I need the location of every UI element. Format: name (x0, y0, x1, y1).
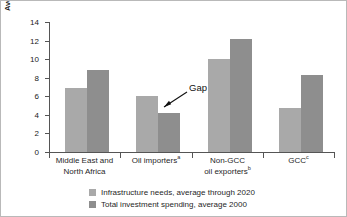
chart-figure: Average share of GDP (%) 0 2 4 6 8 10 (0, 0, 347, 217)
x-category-label-mena: Middle East and North Africa (49, 156, 120, 177)
x-category-label-non-gcc-line1: Non-GCC (210, 156, 245, 165)
x-category-footnote-oil-importers: a (177, 154, 180, 160)
y-tick-2 (45, 133, 49, 134)
x-category-label-non-gcc-oil-exporters: Non-GCC oil exportersb (192, 156, 263, 177)
x-category-label-mena-line2: North Africa (64, 167, 106, 176)
chart-legend: Infrastructure needs, average through 20… (89, 187, 255, 211)
y-tick-label-0: 0 (35, 148, 39, 157)
bar-gcc-infrastructure-needs (279, 108, 301, 152)
x-category-label-gcc-line1: GCC (288, 156, 306, 165)
y-tick-label-4: 4 (35, 110, 39, 119)
bar-gcc-total-investment-spending (301, 75, 323, 152)
bar-mena-infrastructure-needs (65, 88, 87, 152)
y-axis-title: Average share of GDP (%) (1, 0, 15, 29)
y-tick-12 (45, 41, 49, 42)
y-tick-10 (45, 59, 49, 60)
gap-annotation-label: Gap (189, 82, 207, 93)
legend-label-total-investment-spending: Total investment spending, average 2000 (101, 200, 247, 209)
y-tick-label-6: 6 (35, 92, 39, 101)
bar-non-gcc-oil-exporters-total-investment-spending (230, 39, 252, 152)
x-category-label-gcc: GCCc (263, 156, 334, 167)
y-tick-14 (45, 22, 49, 23)
y-tick-label-12: 12 (30, 36, 39, 45)
legend-label-infrastructure-needs: Infrastructure needs, average through 20… (101, 188, 255, 197)
bar-mena-total-investment-spending (87, 70, 109, 152)
legend-item-infrastructure-needs: Infrastructure needs, average through 20… (89, 187, 255, 198)
gap-annotation-arrow (155, 88, 193, 110)
x-category-footnote-gcc: c (306, 154, 309, 160)
legend-swatch-icon-infrastructure-needs (89, 189, 96, 196)
bar-non-gcc-oil-exporters-infrastructure-needs (208, 59, 230, 152)
y-tick-label-8: 8 (35, 73, 39, 82)
bar-oil-importers-total-investment-spending (158, 113, 180, 152)
y-tick-label-2: 2 (35, 129, 39, 138)
y-tick-label-10: 10 (30, 55, 39, 64)
x-category-label-oil-importers-line1: Oil importers (132, 156, 177, 165)
y-axis-line (49, 22, 50, 153)
x-category-label-oil-importers: Oil importersa (120, 156, 192, 167)
legend-item-total-investment-spending: Total investment spending, average 2000 (89, 199, 255, 210)
y-tick-label-14: 14 (30, 18, 39, 27)
x-category-footnote-non-gcc: b (248, 165, 251, 171)
x-category-label-non-gcc-line2: oil exporters (204, 167, 248, 176)
y-tick-4 (45, 115, 49, 116)
x-tick-separator-4 (334, 153, 335, 158)
y-tick-6 (45, 96, 49, 97)
plot-area: 0 2 4 6 8 10 12 14 (49, 22, 335, 153)
y-tick-8 (45, 78, 49, 79)
legend-swatch-icon-total-investment-spending (89, 201, 96, 208)
x-category-label-mena-line1: Middle East and (56, 156, 113, 165)
